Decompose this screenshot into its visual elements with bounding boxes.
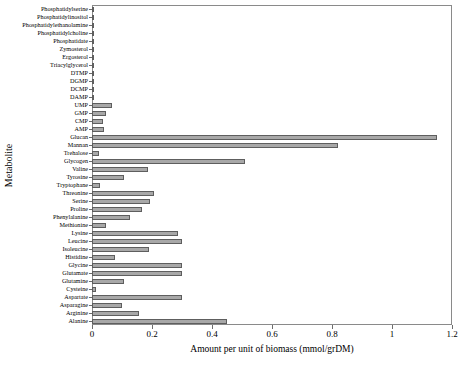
bar: [92, 279, 124, 284]
category-label: Aspartate: [64, 293, 88, 301]
category-label: CMP: [75, 117, 88, 125]
category-label: Proline: [70, 205, 88, 213]
category-label: Lysine: [72, 229, 89, 237]
bar: [92, 79, 94, 84]
category-label: Serine: [72, 197, 88, 205]
bar: [92, 55, 94, 60]
bar: [92, 47, 94, 52]
category-label: Threonine: [63, 189, 88, 197]
category-label: Phosphatidylserine: [41, 5, 88, 13]
category-label: Asparagine: [60, 301, 88, 309]
category-label: Methionine: [59, 221, 88, 229]
bar: [92, 71, 94, 76]
category-label: Phosphatidate: [53, 37, 88, 45]
x-axis-label: Amount per unit of biomass (mmol/grDM): [92, 344, 452, 354]
y-axis-label-text: Metabolite: [4, 143, 15, 186]
bar: [92, 191, 154, 196]
bar: [92, 231, 178, 236]
y-axis-label: Metabolite: [0, 0, 18, 330]
category-label: DTMP: [71, 69, 88, 77]
bar: [92, 15, 94, 20]
category-label: Glutamate: [62, 269, 88, 277]
bar: [92, 303, 122, 308]
chart-figure: Metabolite PhosphatidylserinePhosphatidy…: [0, 0, 467, 368]
category-label: Glucan: [70, 133, 88, 141]
category-label: Phosphatidylethanolamine: [22, 21, 88, 29]
bar: [92, 63, 94, 68]
bar: [92, 111, 106, 116]
category-label: Trehalose: [64, 149, 88, 157]
bar: [92, 135, 437, 140]
bar: [92, 119, 103, 124]
bar: [92, 199, 150, 204]
bar: [92, 167, 148, 172]
category-label: Ergosterol: [62, 53, 88, 61]
bar: [92, 95, 94, 100]
category-label: Glycine: [68, 261, 88, 269]
category-label: UMP: [75, 101, 88, 109]
category-label: Phenylalanine: [53, 213, 88, 221]
category-label: Cysteine: [66, 285, 88, 293]
category-label: DCMP: [70, 85, 88, 93]
category-label: Zymosterol: [59, 45, 88, 53]
category-label: Phosphatidylcholine: [37, 29, 88, 37]
bar: [92, 247, 149, 252]
category-label: Phosphatidylinositol: [37, 13, 88, 21]
category-label: Isoleucine: [63, 245, 88, 253]
bar: [92, 319, 227, 324]
bar: [92, 263, 182, 268]
bar: [92, 223, 106, 228]
bar: [92, 239, 182, 244]
bar: [92, 295, 182, 300]
bar: [92, 103, 112, 108]
category-label: Glutamine: [62, 277, 88, 285]
x-axis-tick-label: 0.4: [192, 329, 232, 339]
bar: [92, 143, 338, 148]
category-label: Alanine: [68, 317, 88, 325]
category-label: AMP: [75, 125, 88, 133]
bar: [92, 271, 182, 276]
bar: [92, 255, 115, 260]
bar: [92, 127, 104, 132]
bar: [92, 87, 94, 92]
bar: [92, 23, 94, 28]
category-label: Leucine: [68, 237, 88, 245]
category-label: Histidine: [65, 253, 88, 261]
x-axis-tick-label: 0.6: [252, 329, 292, 339]
bar: [92, 7, 94, 12]
category-label: Arginine: [66, 309, 88, 317]
bar: [92, 31, 94, 36]
category-label: Glycogen: [64, 157, 88, 165]
x-axis-tick-label: 1.2: [432, 329, 467, 339]
bar: [92, 159, 245, 164]
bar: [92, 175, 124, 180]
category-label: Triacylglycerol: [50, 61, 88, 69]
category-label: Valine: [72, 165, 88, 173]
bar: [92, 207, 142, 212]
category-label: DAMP: [70, 93, 88, 101]
bar: [92, 287, 96, 292]
category-label: Mannan: [68, 141, 88, 149]
bar: [92, 311, 139, 316]
x-axis-tick-label: 0: [72, 329, 112, 339]
category-label: DGMP: [70, 77, 88, 85]
bar: [92, 215, 130, 220]
plot-area: [92, 5, 452, 325]
category-label: GMP: [75, 109, 88, 117]
x-axis-tick-label: 1: [372, 329, 412, 339]
category-label: Tyrosine: [66, 173, 88, 181]
x-axis-tick-label: 0.2: [132, 329, 172, 339]
bar: [92, 151, 99, 156]
category-label: Tryptophane: [57, 181, 88, 189]
bar: [92, 39, 94, 44]
bar: [92, 183, 100, 188]
x-axis-tick-label: 0.8: [312, 329, 352, 339]
